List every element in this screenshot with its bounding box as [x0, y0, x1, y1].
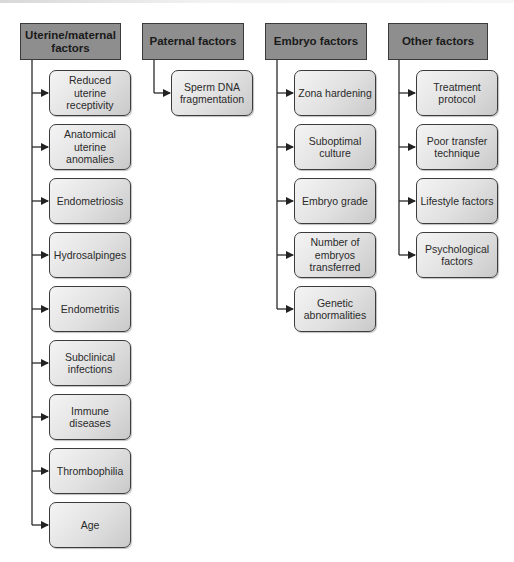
header-embryo-factors: Embryo factors: [265, 23, 367, 60]
factor-box: Immune diseases: [49, 394, 131, 440]
factor-box: Sperm DNA fragmentation: [171, 70, 253, 116]
header-other-factors: Other factors: [388, 23, 488, 60]
factor-box: Zona hardening: [294, 70, 376, 116]
factor-box: Poor transfer technique: [416, 124, 498, 170]
factor-box: Embryo grade: [294, 178, 376, 224]
factor-box: Endometriosis: [49, 178, 131, 224]
factor-box: Subclinical infections: [49, 340, 131, 386]
factor-box: Endometritis: [49, 286, 131, 332]
factor-box: Number of embryos transferred: [294, 232, 376, 278]
factor-box: Reduced uterine receptivity: [49, 70, 131, 116]
factor-box: Genetic abnormalities: [294, 286, 376, 332]
factor-box: Suboptimal culture: [294, 124, 376, 170]
factor-box: Anatomical uterine anomalies: [49, 124, 131, 170]
factor-box: Lifestyle factors: [416, 178, 498, 224]
header-paternal-factors: Paternal factors: [142, 23, 244, 60]
header-uterine-maternal-factors: Uterine/maternal factors: [20, 23, 121, 60]
factor-box: Hydrosalpinges: [49, 232, 131, 278]
factor-box: Age: [49, 502, 131, 548]
factor-box: Treatment protocol: [416, 70, 498, 116]
factor-box: Psychological factors: [416, 232, 498, 278]
factor-box: Thrombophilia: [49, 448, 131, 494]
